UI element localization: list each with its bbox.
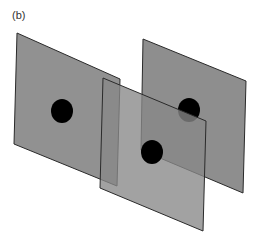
panel-label: (b) (12, 9, 25, 21)
dot-left (51, 99, 73, 123)
figure: (b) (0, 0, 264, 246)
dot-front-center (141, 140, 163, 164)
planes-diagram (0, 0, 264, 246)
